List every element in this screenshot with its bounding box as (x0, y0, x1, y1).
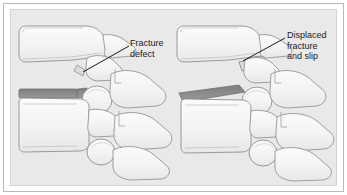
right-upper-vertebral-body (177, 26, 267, 62)
left-lower-vertebral-body (19, 98, 89, 152)
right-bottom-spinous-fragment (275, 148, 332, 181)
left-fracture-defect-gap (74, 65, 85, 76)
left-lower-spinous-process (114, 113, 172, 150)
annotation-displaced-line1: Displaced (287, 30, 327, 40)
right-upper-lamina-spinous (270, 71, 326, 108)
annotation-fracture-defect: Fracturedefect (130, 38, 164, 59)
left-upper-lamina-spinous (110, 71, 166, 108)
annotation-displaced-line2: fracture (287, 41, 318, 51)
left-bottom-spinous-fragment (113, 147, 170, 180)
annotation-fracture-defect-line1: Fracture (130, 38, 164, 48)
annotation-fracture-defect-line2: defect (130, 49, 155, 59)
illustration-panel: Fracturedefect Displacedfractureand slip (10, 9, 337, 186)
figure-root: Fracturedefect Displacedfractureand slip (0, 0, 347, 195)
right-lower-vertebral-body (181, 99, 251, 153)
right-lower-spinous-process (276, 114, 334, 151)
annotation-displaced-line3: and slip (287, 51, 318, 61)
left-disc-band (19, 89, 77, 98)
annotation-displaced-fracture-and-slip: Displacedfractureand slip (287, 30, 327, 62)
